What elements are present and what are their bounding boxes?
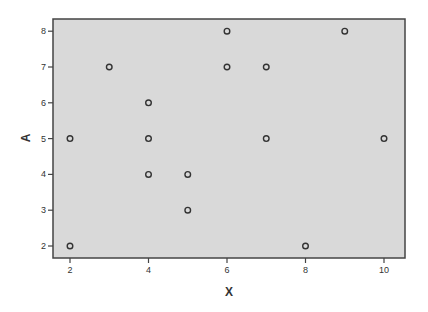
x-tick-label: 4 (146, 265, 151, 275)
y-tick-label: 7 (41, 62, 46, 72)
x-axis-title: X (225, 285, 233, 299)
y-axis: 2345678 (41, 26, 53, 251)
y-tick-label: 4 (41, 169, 46, 179)
x-tick-label: 10 (379, 265, 389, 275)
y-axis-title: A (19, 133, 33, 142)
y-tick-label: 8 (41, 26, 46, 36)
x-tick-label: 6 (224, 265, 229, 275)
y-tick-label: 2 (41, 241, 46, 251)
plot-area (53, 19, 405, 258)
y-tick-label: 3 (41, 205, 46, 215)
x-axis: 246810 (67, 258, 389, 275)
y-tick-label: 6 (41, 98, 46, 108)
scatter-chart: 246810 2345678 X A (0, 0, 428, 312)
x-tick-label: 2 (67, 265, 72, 275)
x-tick-label: 8 (303, 265, 308, 275)
y-tick-label: 5 (41, 134, 46, 144)
